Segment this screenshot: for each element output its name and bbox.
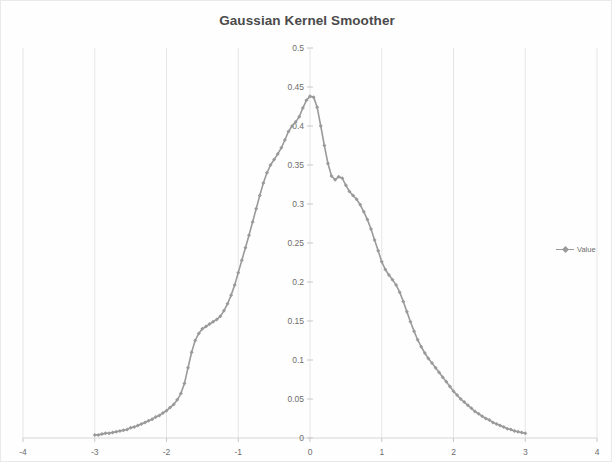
- chart-frame: Gaussian Kernel Smoother 00.050.10.150.2…: [0, 0, 612, 462]
- svg-text:0.25: 0.25: [287, 238, 304, 248]
- svg-text:3: 3: [523, 447, 528, 457]
- svg-text:0.05: 0.05: [287, 394, 304, 404]
- y-axis-labels: 00.050.10.150.20.250.30.350.40.450.5: [287, 43, 304, 443]
- svg-text:0.45: 0.45: [287, 82, 304, 92]
- svg-text:4: 4: [595, 447, 600, 457]
- plot-area: 00.050.10.150.20.250.30.350.40.450.5 -4-…: [1, 1, 612, 462]
- svg-text:-4: -4: [19, 447, 27, 457]
- chart-canvas: 00.050.10.150.20.250.30.350.40.450.5 -4-…: [1, 1, 612, 462]
- svg-text:1: 1: [379, 447, 384, 457]
- legend-marker-icon: [556, 246, 574, 254]
- svg-text:0: 0: [299, 433, 304, 443]
- svg-text:-2: -2: [163, 447, 171, 457]
- svg-text:0.5: 0.5: [292, 43, 304, 53]
- svg-text:0.3: 0.3: [292, 199, 304, 209]
- svg-text:-1: -1: [234, 447, 242, 457]
- chart-legend: Value: [556, 245, 596, 254]
- svg-text:2: 2: [451, 447, 456, 457]
- svg-text:0.15: 0.15: [287, 316, 304, 326]
- svg-text:0.35: 0.35: [287, 160, 304, 170]
- svg-text:-3: -3: [91, 447, 99, 457]
- svg-text:0.1: 0.1: [292, 355, 304, 365]
- legend-label-value: Value: [577, 245, 596, 254]
- x-axis-labels: -4-3-2-101234: [19, 447, 599, 457]
- svg-text:0: 0: [308, 447, 313, 457]
- svg-text:0.2: 0.2: [292, 277, 304, 287]
